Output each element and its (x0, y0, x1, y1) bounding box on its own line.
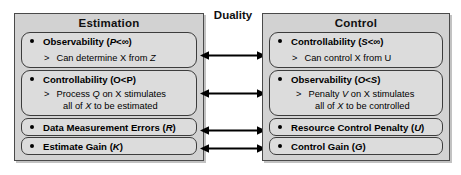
bullet-icon (278, 39, 282, 43)
estimation-panel: Estimation Observability (P<∞) >Can dete… (14, 13, 204, 161)
control-item-observability[interactable]: Observability (O<S) >Penalty V on X stim… (269, 70, 443, 116)
estimation-item-data-measurement-errors-label: Data Measurement Errors (R) (30, 122, 192, 133)
estimation-item-observability-sub: >Can determine X from Z (44, 53, 192, 63)
estimation-item-controllability-sub: >Process Q on X stimulates (44, 89, 192, 99)
estimation-item-observability-label: Observability (P<∞) (30, 36, 192, 47)
bullet-icon (278, 125, 282, 129)
chevron-right-icon: > (44, 53, 49, 63)
bullet-icon (278, 77, 282, 81)
bullet-icon (30, 125, 34, 129)
chevron-right-icon: > (296, 89, 301, 99)
control-item-controllability[interactable]: Controllability (S<∞) >Can control X fro… (269, 32, 443, 68)
connector-arrow-4 (200, 144, 266, 153)
control-item-observability-label: Observability (O<S) (278, 74, 438, 85)
duality-label: Duality (206, 9, 260, 21)
estimation-item-data-measurement-errors[interactable]: Data Measurement Errors (R) (21, 118, 197, 136)
control-item-resource-control-penalty-label: Resource Control Penalty (U) (278, 122, 438, 133)
bullet-icon (30, 144, 34, 148)
chevron-right-icon: > (44, 89, 49, 99)
estimation-item-estimate-gain-label: Estimate Gain (K) (30, 141, 192, 152)
control-item-control-gain[interactable]: Control Gain (G) (269, 137, 443, 155)
control-panel-title: Control (263, 17, 449, 29)
estimation-item-observability[interactable]: Observability (P<∞) >Can determine X fro… (21, 32, 197, 68)
connector-arrow-2 (200, 89, 266, 98)
estimation-panel-title: Estimation (15, 17, 203, 29)
duality-diagram: Estimation Observability (P<∞) >Can dete… (0, 0, 461, 175)
chevron-right-icon: > (292, 53, 297, 63)
bullet-icon (30, 77, 34, 81)
control-item-controllability-label: Controllability (S<∞) (278, 36, 438, 47)
estimation-item-estimate-gain[interactable]: Estimate Gain (K) (21, 137, 197, 155)
bullet-icon (278, 144, 282, 148)
estimation-item-controllability[interactable]: Controllability (O<P) >Process Q on X st… (21, 70, 197, 116)
bullet-icon (30, 39, 34, 43)
connector-arrow-3 (200, 126, 266, 135)
control-panel: Control Controllability (S<∞) >Can contr… (262, 13, 450, 161)
estimation-item-controllability-sub-line2: all of X to be estimated (63, 101, 158, 111)
control-item-observability-sub: >Penalty V on X stimulates (296, 89, 438, 99)
control-item-observability-sub-line2: all of X to be controlled (315, 101, 410, 111)
control-item-control-gain-label: Control Gain (G) (278, 141, 438, 152)
estimation-item-controllability-label: Controllability (O<P) (30, 74, 192, 85)
control-item-resource-control-penalty[interactable]: Resource Control Penalty (U) (269, 118, 443, 136)
control-item-controllability-sub: >Can control X from U (292, 53, 438, 63)
connector-arrow-1 (200, 51, 266, 60)
